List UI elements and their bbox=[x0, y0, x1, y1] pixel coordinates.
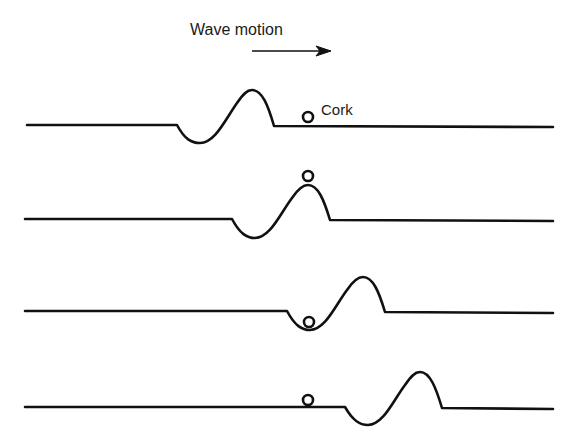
frame-4 bbox=[25, 372, 553, 425]
wave-line-1 bbox=[27, 90, 553, 143]
wave-line-2 bbox=[25, 185, 553, 238]
right-arrow-icon bbox=[252, 46, 331, 56]
cork-icon bbox=[304, 317, 314, 327]
frame-1 bbox=[27, 90, 553, 143]
wave-line-4 bbox=[25, 372, 553, 425]
wave-motion-diagram: Wave motion Cork bbox=[0, 0, 577, 438]
frame-3 bbox=[25, 277, 553, 330]
cork-icon bbox=[303, 395, 313, 405]
cork-icon bbox=[303, 112, 313, 122]
cork-icon bbox=[303, 171, 313, 181]
cork-label: Cork bbox=[321, 101, 353, 118]
wave-motion-title: Wave motion bbox=[190, 21, 283, 39]
diagram-canvas bbox=[0, 0, 577, 438]
wave-line-3 bbox=[25, 277, 553, 330]
frame-2 bbox=[25, 171, 553, 238]
